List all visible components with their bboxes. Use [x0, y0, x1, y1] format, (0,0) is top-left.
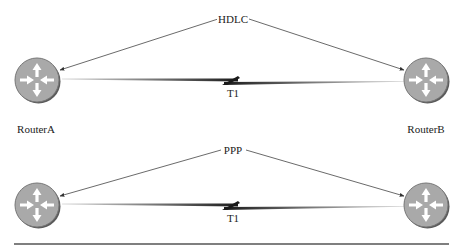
lightning-serial-link-icon	[62, 76, 404, 85]
router-icon	[15, 58, 61, 104]
router-name-left: RouterA	[16, 123, 56, 135]
ppp-pointer-line-right	[246, 150, 404, 196]
router-icon	[404, 183, 450, 229]
hdlc-pointer-line-left	[60, 19, 218, 70]
lightning-serial-link-icon	[62, 201, 404, 210]
router-icon	[15, 183, 61, 229]
hdlc-pointer-line-right	[249, 19, 404, 70]
link-label-t1: T1	[226, 212, 240, 224]
protocol-label-hdlc: HDLC	[217, 13, 249, 25]
protocol-label-ppp: PPP	[223, 144, 243, 156]
ppp-pointer-line-left	[60, 150, 221, 196]
router-name-right: RouterB	[406, 123, 445, 135]
router-icon	[404, 58, 450, 104]
link-label-t1: T1	[226, 87, 240, 99]
